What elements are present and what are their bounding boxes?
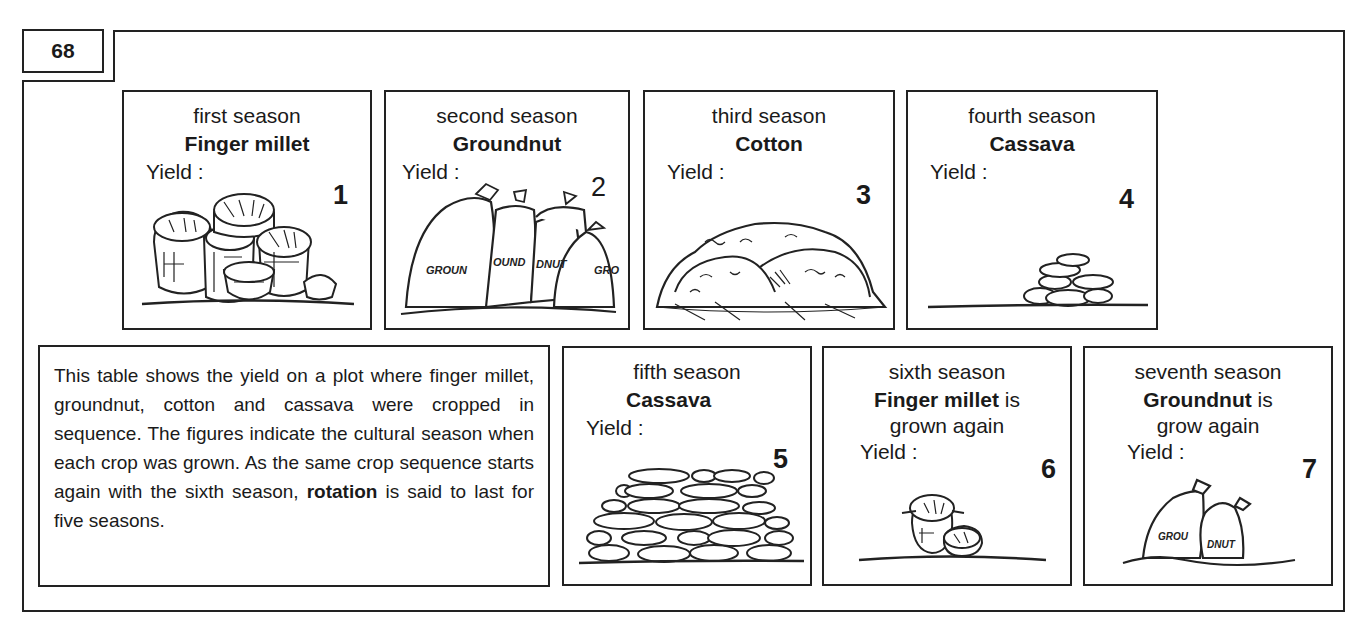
- yield-label: Yield :: [146, 160, 204, 184]
- season-card-4: fourth season Cassava Yield : 4: [906, 90, 1158, 330]
- crop-name-text: Cassava: [989, 132, 1074, 155]
- sack-label: GROU: [1158, 531, 1189, 542]
- page-number-badge: 68: [22, 29, 104, 73]
- season-label: third season: [645, 104, 893, 128]
- groundnut-sacks-small-icon: GROU DNUT: [1085, 348, 1335, 588]
- frame-border-right: [1343, 30, 1345, 612]
- season-card-6: sixth season Finger millet is grown agai…: [822, 346, 1072, 586]
- yield-label: Yield :: [586, 416, 644, 440]
- season-number: 1: [333, 180, 348, 211]
- description-text: This table shows the yield on a plot whe…: [38, 345, 550, 587]
- crop-name-text: Cotton: [735, 132, 803, 155]
- frame-border-top: [113, 30, 1345, 32]
- crop-name: Cotton: [645, 132, 893, 156]
- sack-label: GROUN: [426, 264, 468, 276]
- frame-border-step: [22, 80, 115, 82]
- season-label: first season: [124, 104, 370, 128]
- frame-border-left: [22, 80, 24, 612]
- crop-name-text: Cassava: [626, 388, 711, 411]
- frame-border-step: [113, 30, 115, 82]
- season-number: 5: [773, 444, 788, 475]
- season-label: seventh season: [1085, 360, 1331, 384]
- cotton-heap-large-icon: [645, 92, 897, 332]
- crop-name-text: Finger millet: [185, 132, 310, 155]
- season-label: fifth season: [564, 360, 810, 384]
- frame-border-bottom: [22, 610, 1345, 612]
- season-card-2: GROUN OUND DNUT GRO second season Ground…: [384, 90, 630, 330]
- season-label: second season: [386, 104, 628, 128]
- yield-label: Yield :: [667, 160, 725, 184]
- season-card-5: fifth season Cassava Yield : 5: [562, 346, 812, 586]
- crop-name-text: Groundnut: [453, 132, 561, 155]
- grown-again-note: grown again: [824, 414, 1070, 438]
- page-number: 68: [51, 39, 74, 63]
- crop-name: Finger millet: [124, 132, 370, 156]
- season-label: sixth season: [824, 360, 1070, 384]
- crop-name-suffix: is: [1252, 388, 1273, 411]
- crop-name: Groundnut: [386, 132, 628, 156]
- finger-millet-baskets-small-icon: [824, 348, 1074, 588]
- season-number: 2: [591, 172, 606, 203]
- season-number: 3: [856, 180, 871, 211]
- crop-name: Finger millet is: [824, 388, 1070, 412]
- groundnut-sacks-large-icon: GROUN OUND DNUT GRO: [386, 92, 632, 332]
- yield-label: Yield :: [1127, 440, 1185, 464]
- crop-name-text: Finger millet: [874, 388, 999, 411]
- crop-name: Groundnut is: [1085, 388, 1331, 412]
- season-card-3: third season Cotton Yield : 3: [643, 90, 895, 330]
- season-label: fourth season: [908, 104, 1156, 128]
- sack-label: GRO: [594, 264, 620, 276]
- crop-name: Cassava: [626, 388, 810, 412]
- season-number: 7: [1302, 454, 1317, 485]
- finger-millet-baskets-large-icon: [124, 92, 374, 332]
- grown-again-note: grow again: [1085, 414, 1331, 438]
- yield-label: Yield :: [402, 160, 460, 184]
- season-number: 6: [1041, 454, 1056, 485]
- season-number: 4: [1119, 184, 1134, 215]
- yield-label: Yield :: [930, 160, 988, 184]
- season-card-7: GROU DNUT seventh season Groundnut is gr…: [1083, 346, 1333, 586]
- sack-label: OUND: [493, 256, 525, 268]
- yield-label: Yield :: [860, 440, 918, 464]
- season-card-1: first season Finger millet Yield : 1: [122, 90, 372, 330]
- crop-name: Cassava: [908, 132, 1156, 156]
- crop-name-suffix: is: [999, 388, 1020, 411]
- sack-label: DNUT: [1207, 539, 1236, 550]
- crop-name-text: Groundnut: [1143, 388, 1251, 411]
- sack-label: DNUT: [536, 258, 568, 270]
- description-bold-term: rotation: [307, 481, 378, 502]
